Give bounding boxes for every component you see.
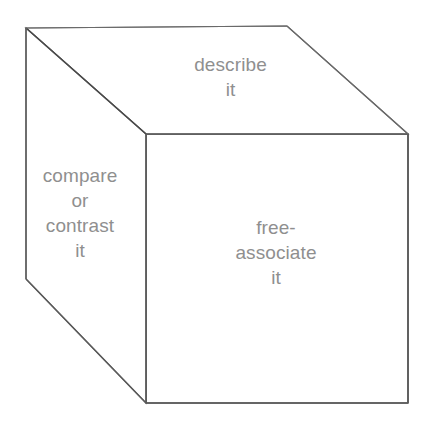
cube-face-front-label: free- associate it <box>212 215 340 290</box>
cube-face-top-label: describe it <box>158 52 303 102</box>
cube-diagram: describe it compare or contrast it free-… <box>0 0 434 430</box>
cube-face-left-label: compare or contrast it <box>22 163 138 263</box>
